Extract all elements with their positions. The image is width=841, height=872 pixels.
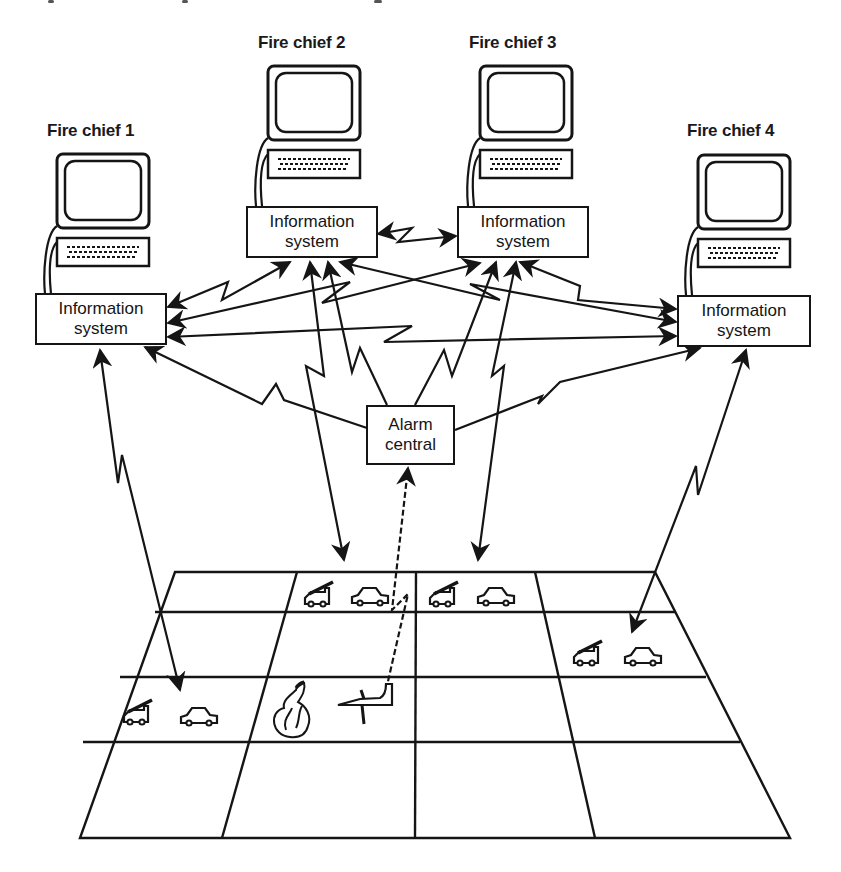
information-system-2-line2: system (248, 232, 376, 252)
computer-icon-fire-chief-1 (44, 154, 149, 294)
alarm-central-line2: central (368, 435, 453, 455)
cropped-text-fragment (48, 0, 54, 3)
computer-icon-fire-chief-4 (685, 155, 790, 295)
fire-engine-icon (574, 641, 602, 666)
computer-icon-fire-chief-3 (467, 66, 572, 206)
airplane-icon (338, 684, 392, 724)
computer-icon-fire-chief-2 (255, 66, 360, 206)
information-system-3-line1: Information (459, 212, 587, 232)
information-system-2-line1: Information (248, 212, 376, 232)
fire-chief-2-label: Fire chief 2 (258, 33, 345, 53)
car-icon (625, 648, 661, 666)
information-system-3-line2: system (459, 232, 587, 252)
fire-chief-1-label: Fire chief 1 (47, 121, 134, 141)
fire-chief-4-label: Fire chief 4 (687, 121, 774, 141)
alarm-central: Alarm central (366, 405, 455, 465)
cropped-text-fragment (182, 0, 188, 3)
information-system-1: Information system (35, 293, 167, 345)
information-system-4: Information system (677, 295, 811, 347)
alarm-central-line1: Alarm (368, 415, 453, 435)
car-icon (478, 588, 514, 606)
information-system-1-line2: system (37, 319, 165, 339)
information-system-3: Information system (457, 206, 589, 258)
fire-engine-icon (430, 582, 458, 607)
car-icon (352, 588, 388, 606)
information-system-2: Information system (246, 206, 378, 258)
fire-engine-icon (305, 582, 333, 607)
map-grid (80, 572, 790, 838)
fire-chief-3-label: Fire chief 3 (469, 33, 556, 53)
information-system-4-line2: system (679, 321, 809, 341)
cropped-text-fragment (374, 0, 382, 3)
fire-icon (274, 682, 309, 737)
information-system-4-line1: Information (679, 301, 809, 321)
car-icon (181, 708, 217, 726)
information-system-1-line1: Information (37, 299, 165, 319)
